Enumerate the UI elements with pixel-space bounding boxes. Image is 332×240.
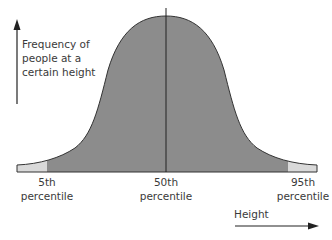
p50-label: 50th percentile [131,175,201,203]
p50-label-text: percentile [131,189,201,203]
right-tail-region [288,0,317,172]
bell-curve-chart [0,0,332,240]
p50-label-value: 50th [131,175,201,189]
y-arrow-head-icon [14,19,21,30]
y-axis-label: Frequency of people at a certain height [22,37,95,79]
p5-label-text: percentile [12,189,82,203]
y-label-line-1: Frequency of [22,37,95,51]
middle-region [47,0,288,172]
p95-label-text: percentile [268,189,332,203]
p95-label-value: 95th [268,175,332,189]
y-label-line-2: people at a [22,51,95,65]
p5-label: 5th percentile [12,175,82,203]
x-axis-label: Height [234,207,269,221]
left-tail-region [17,0,47,172]
p95-label: 95th percentile [268,175,332,203]
y-label-line-3: certain height [22,65,95,79]
x-arrow-head-icon [308,223,319,230]
p5-label-value: 5th [12,175,82,189]
